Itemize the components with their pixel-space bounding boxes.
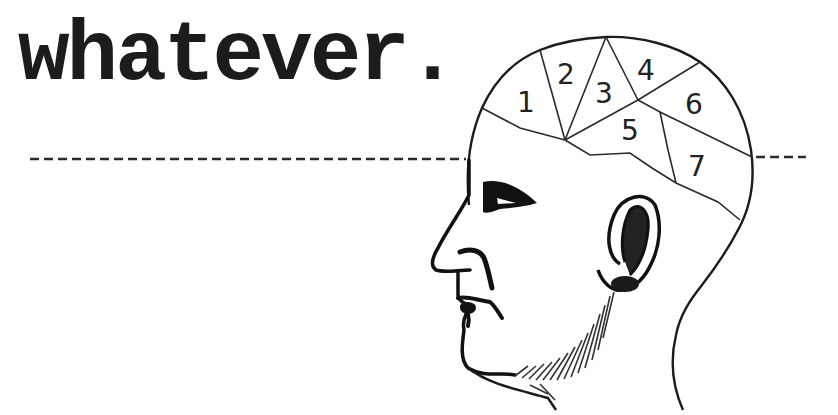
lower-lip: [460, 302, 476, 314]
region-label-4: 4: [637, 54, 655, 87]
eye: [483, 181, 537, 213]
region-label-3: 3: [595, 77, 613, 110]
phrenology-head-illustration: 1 2 3 4 5 6 7: [0, 0, 838, 415]
region-label-6: 6: [685, 88, 703, 121]
region-label-1: 1: [517, 86, 535, 119]
region-label-2: 2: [557, 58, 575, 91]
neck-hatching: [515, 292, 614, 400]
region-label-7: 7: [688, 150, 706, 183]
ear-inner: [622, 206, 648, 275]
ear-lobe: [611, 276, 639, 292]
region-label-5: 5: [621, 114, 639, 147]
